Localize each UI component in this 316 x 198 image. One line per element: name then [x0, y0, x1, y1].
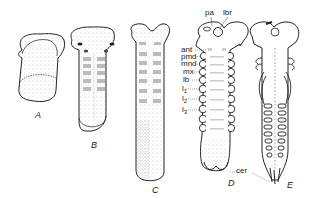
stage-label-d: D [228, 179, 235, 188]
stage-label-c: C [152, 186, 159, 195]
embryo-stage-a [19, 34, 65, 102]
label-pa: pa [205, 9, 214, 17]
stage-label-e: E [287, 181, 293, 190]
label-l2: l2 [182, 95, 187, 104]
label-l1: l1 [182, 85, 187, 94]
embryo-figure [0, 0, 316, 198]
label-lbr: lbr [223, 9, 232, 17]
label-l3-sub: 3 [184, 109, 187, 115]
label-l3: l3 [182, 106, 187, 115]
label-l2-sub: 2 [184, 98, 187, 104]
embryo-stage-b [71, 27, 115, 131]
label-lb: lb [183, 76, 189, 84]
stage-label-b: B [91, 141, 97, 150]
label-cer: cer [236, 167, 247, 175]
label-l1-sub: 1 [184, 88, 187, 94]
stage-label-a: A [35, 111, 41, 120]
embryo-stage-c [131, 24, 170, 181]
embryo-stage-e [250, 22, 299, 184]
embryo-stage-d [196, 22, 248, 171]
